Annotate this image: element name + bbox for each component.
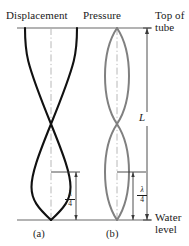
standing-wave-figure: Displacement Pressure Top of tube Water … [0, 0, 189, 246]
quarter-a-arrow-top [74, 172, 77, 177]
length-arrow-top [145, 28, 149, 34]
quarter-wavelength-label-a: λ 4 [64, 190, 76, 208]
quarter-wavelength-numerator-b: λ [136, 186, 148, 195]
tube-length-label: L [139, 112, 145, 124]
quarter-wavelength-label-b: λ 4 [136, 186, 148, 204]
figure-canvas [0, 0, 189, 246]
quarter-wavelength-numerator-a: λ [64, 190, 76, 199]
top-of-tube-line1: Top of [155, 9, 184, 21]
top-of-tube-line2: tube [155, 21, 174, 33]
length-arrow-bottom [145, 214, 149, 220]
panel-b-title: Pressure [83, 10, 121, 22]
quarter-b-arrow-bottom [131, 215, 134, 220]
panel-a-title: Displacement [6, 10, 68, 22]
quarter-wavelength-denominator-b: 4 [136, 196, 148, 205]
quarter-a-arrow-bottom [74, 215, 77, 220]
panel-b-caption: (b) [106, 228, 119, 240]
water-level-label: Water level [155, 212, 189, 235]
water-level-line2: level [155, 223, 177, 235]
panel-a-caption: (a) [33, 228, 45, 240]
quarter-wavelength-denominator-a: 4 [64, 200, 76, 209]
quarter-b-arrow-top [131, 172, 134, 177]
top-of-tube-label: Top of tube [155, 10, 189, 33]
water-level-line1: Water [155, 211, 182, 223]
